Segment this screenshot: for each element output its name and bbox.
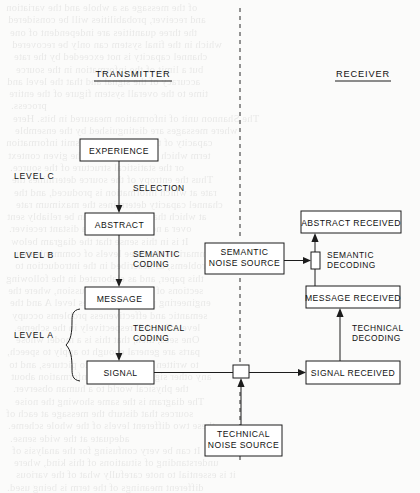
box-message: MESSAGE — [85, 287, 154, 309]
box-abstract-received: ABSTRACT RECEIVED — [301, 211, 401, 233]
box-technical-noise-source-label-2: NOISE SOURCE — [208, 440, 279, 450]
box-message-received-label: MESSAGE RECEIVED — [305, 293, 401, 303]
arrow-semantic-coding-head — [116, 279, 123, 287]
arrow-technical-coding-label-1: TECHNICAL — [133, 323, 185, 333]
arrow-semantic-coding-label-2: CODING — [133, 259, 169, 269]
arrow-technical-decoding: TECHNICAL DECODING — [336, 308, 403, 361]
box-experience-label: EXPERIENCE — [89, 146, 149, 156]
box-experience: EXPERIENCE — [80, 139, 158, 161]
arrow-semantic-decoding-label-1: SEMANTIC — [327, 250, 374, 260]
signal-received-arrow-head — [298, 369, 306, 376]
level-a-label: LEVEL A — [14, 330, 54, 340]
box-signal-received-label: SIGNAL RECEIVED — [311, 368, 395, 378]
box-message-label: MESSAGE — [97, 294, 143, 304]
box-technical-noise-source-label-1: TECHNICAL — [217, 429, 270, 439]
arrow-technical-decoding-label-2: DECODING — [352, 333, 401, 343]
arrow-technical-noise-injection — [237, 378, 244, 425]
arrow-technical-decoding-label-1: TECHNICAL — [352, 323, 404, 333]
arrow-semantic-coding-label-1: SEMANTIC — [133, 249, 180, 259]
level-a-brace — [66, 309, 80, 381]
arrow-semantic-decoding-label-2: DECODING — [327, 260, 376, 270]
arrow-semantic-noise-injection-head — [303, 257, 311, 264]
box-signal-received: SIGNAL RECEIVED — [306, 361, 400, 384]
arrow-semantic-decoding: SEMANTIC DECODING — [311, 233, 376, 286]
arrow-technical-decoding-head — [336, 308, 343, 317]
box-semantic-noise-source: SEMANTIC NOISE SOURCE — [205, 243, 284, 274]
arrow-selection-label: SELECTION — [133, 183, 185, 193]
arrow-semantic-noise-injection — [284, 257, 311, 264]
semantic-noise-junction — [311, 252, 320, 269]
arrow-semantic-decoding-head — [311, 233, 318, 242]
box-abstract: ABSTRACT — [85, 213, 154, 235]
bleed-through-line: different meanings of the term is being … — [7, 482, 204, 493]
transmitter-heading: TRANSMITTER — [94, 69, 172, 81]
arrow-technical-noise-injection-head — [237, 378, 244, 387]
level-b-label: LEVEL B — [14, 250, 54, 260]
arrow-technical-coding: TECHNICAL CODING — [116, 309, 185, 361]
technical-noise-junction — [233, 365, 249, 378]
arrow-technical-coding-label-2: CODING — [133, 333, 169, 343]
signal-transmission-path — [154, 365, 306, 378]
box-abstract-label: ABSTRACT — [95, 220, 145, 230]
box-semantic-noise-source-label-2: NOISE SOURCE — [209, 258, 280, 268]
box-technical-noise-source: TECHNICAL NOISE SOURCE — [205, 425, 282, 456]
box-signal: SIGNAL — [87, 361, 154, 384]
receiver-heading: RECEIVER — [335, 69, 391, 81]
arrow-semantic-coding: SEMANTIC CODING — [116, 235, 180, 287]
box-abstract-received-label: ABSTRACT RECEIVED — [301, 218, 401, 228]
level-c-label: LEVEL C — [14, 171, 55, 181]
bleed-through-line: it is essential to note carefully what o… — [16, 469, 236, 480]
transmitter-heading-label: TRANSMITTER — [95, 69, 170, 79]
box-semantic-noise-source-label-1: SEMANTIC — [220, 247, 268, 257]
box-signal-label: SIGNAL — [103, 368, 137, 378]
receiver-heading-label: RECEIVER — [336, 69, 390, 79]
box-message-received: MESSAGE RECEIVED — [305, 286, 401, 308]
arrow-technical-coding-head — [116, 353, 123, 361]
arrow-selection: SELECTION — [116, 161, 185, 213]
arrow-selection-head — [116, 205, 123, 213]
